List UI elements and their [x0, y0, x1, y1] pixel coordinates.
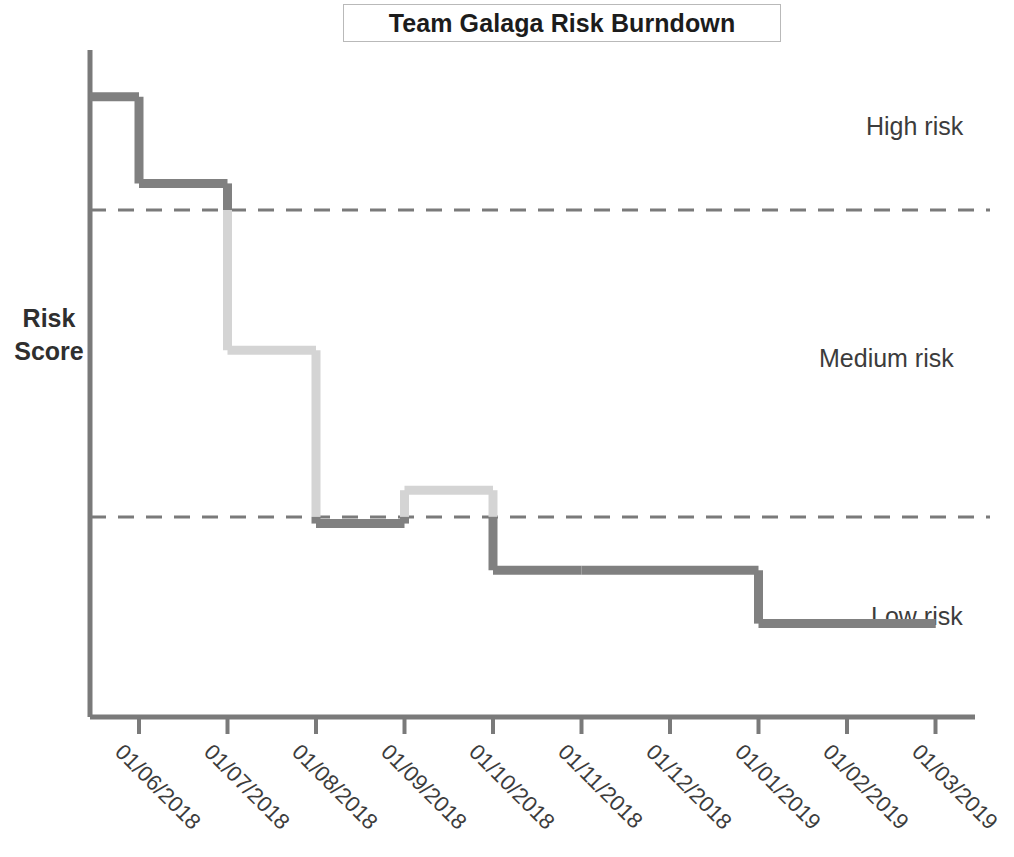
plot-area	[0, 0, 1014, 857]
risk-burndown-line	[90, 97, 936, 624]
x-tick-marks	[139, 717, 936, 734]
risk-burndown-chart: Team Galaga Risk Burndown Risk Score Hig…	[0, 0, 1014, 857]
